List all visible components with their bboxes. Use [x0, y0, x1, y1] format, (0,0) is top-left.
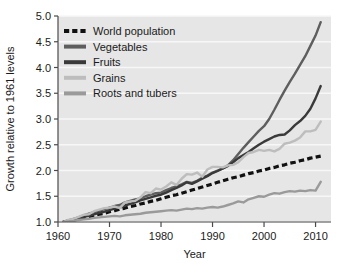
legend-label-1: Vegetables [93, 41, 148, 53]
legend-label-0: World population [93, 25, 175, 37]
y-tick-label-6: 4.0 [36, 62, 51, 74]
legend-label-2: Fruits [93, 56, 121, 68]
legend-label-3: Grains [93, 72, 126, 84]
y-tick-label-0: 1.0 [36, 216, 51, 228]
x-tick-label-4: 2000 [252, 230, 276, 242]
x-tick-label-3: 1990 [200, 230, 224, 242]
y-tick-label-8: 5.0 [36, 10, 51, 22]
x-axis-title: Year [183, 248, 206, 260]
x-tick-label-5: 2010 [303, 230, 327, 242]
y-tick-label-2: 2.0 [36, 165, 51, 177]
y-tick-label-3: 2.5 [36, 139, 51, 151]
x-tick-label-1: 1970 [97, 230, 121, 242]
y-axis-title: Growth relative to 1961 levels [4, 46, 16, 191]
growth-relative-to-1961-line-chart: 1.01.52.02.53.03.54.04.55.01960197019801… [0, 0, 343, 264]
y-tick-label-5: 3.5 [36, 87, 51, 99]
figure-container: 1.01.52.02.53.03.54.04.55.01960197019801… [0, 0, 343, 264]
x-tick-label-2: 1980 [149, 230, 173, 242]
y-tick-label-4: 3.0 [36, 113, 51, 125]
y-tick-label-7: 4.5 [36, 36, 51, 48]
legend-label-4: Roots and tubers [93, 87, 177, 99]
x-tick-label-0: 1960 [46, 230, 70, 242]
y-tick-label-1: 1.5 [36, 190, 51, 202]
